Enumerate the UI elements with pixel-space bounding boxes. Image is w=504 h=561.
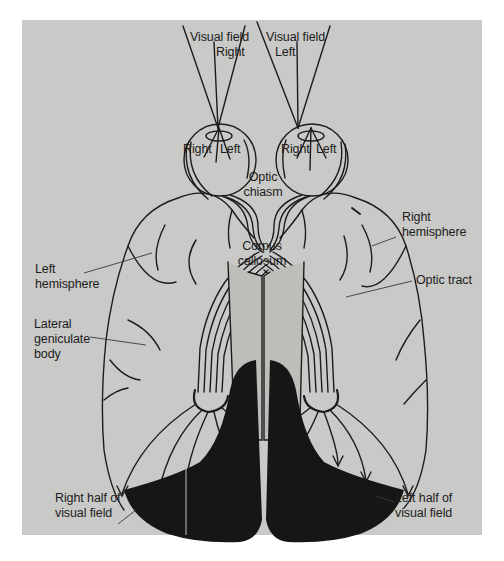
label-optic-tract: Optic tract [416,273,472,288]
label-right-half-visual-field: Right half of visual field [55,491,120,521]
label-corpus-callosum-line1: Corpus [232,239,292,254]
label-visual-field-left-direction: Left [275,45,295,60]
label-lateral-geniculate-line2: geniculate [34,332,90,347]
label-left-half-visual-field-line1: Left half of [395,491,452,506]
label-right-hemisphere: Right hemisphere [402,210,466,240]
label-right-half-visual-field-line2: visual field [55,506,120,521]
label-left-eye-retina-right: Right [183,142,212,157]
label-right-half-visual-field-line1: Right half of [55,491,120,506]
label-right-hemisphere-line1: Right [402,210,466,225]
label-visual-field-right: Visual field [190,30,249,45]
label-visual-field-right-direction: Right [216,45,245,60]
label-right-eye-retina-left: Left [316,142,336,157]
right-visual-cortex [266,360,404,542]
label-lateral-geniculate-body: Lateral geniculate body [34,317,90,362]
label-optic-chiasm-line2: chiasm [238,185,288,200]
label-left-hemisphere: Left hemisphere [35,262,99,292]
label-left-half-visual-field-line2: visual field [395,506,452,521]
label-left-hemisphere-line1: Left [35,262,99,277]
label-optic-chiasm: Optic chiasm [238,170,288,200]
label-lateral-geniculate-line1: Lateral [34,317,90,332]
label-optic-chiasm-line1: Optic [238,170,288,185]
label-corpus-callosum: Corpus callosum [232,239,292,269]
label-left-hemisphere-line2: hemisphere [35,277,99,292]
label-left-eye-retina-left: Left [220,142,240,157]
label-left-half-visual-field: Left half of visual field [395,491,452,521]
label-right-eye-retina-right: Right [281,142,310,157]
label-visual-field-right-line1: Visual field [190,30,249,45]
label-corpus-callosum-line2: callosum [232,254,292,269]
label-right-hemisphere-line2: hemisphere [402,225,466,240]
label-lateral-geniculate-line3: body [34,347,90,362]
label-visual-field-left: Visual field [266,30,325,45]
